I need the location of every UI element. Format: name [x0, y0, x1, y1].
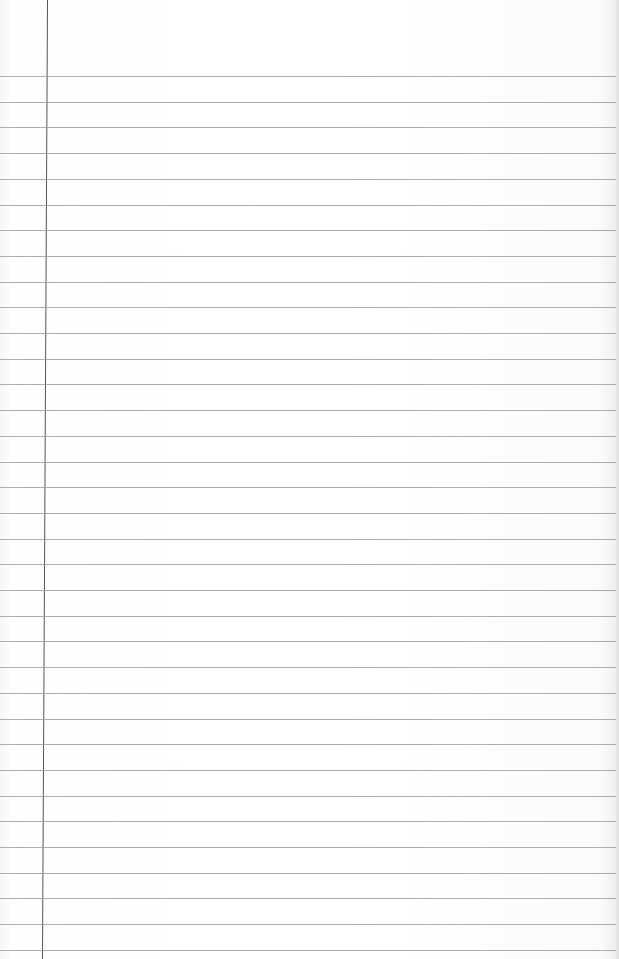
ruled-line — [0, 539, 616, 540]
ruled-line — [0, 616, 616, 617]
ruled-line — [0, 744, 616, 745]
ruled-line — [0, 564, 616, 565]
ruled-line — [0, 384, 616, 385]
ruled-line — [0, 205, 616, 206]
margin-line — [42, 0, 48, 959]
ruled-line — [0, 873, 616, 874]
ruled-line — [0, 462, 616, 463]
ruled-line — [0, 641, 616, 642]
page-edge-shadow — [615, 0, 619, 959]
ruled-line — [0, 487, 616, 488]
ruled-line — [0, 898, 616, 899]
ruled-line — [0, 359, 616, 360]
ruled-line — [0, 436, 616, 437]
ruled-line — [0, 693, 616, 694]
ruled-paper — [0, 0, 619, 959]
ruled-line — [0, 667, 616, 668]
ruled-line — [0, 307, 616, 308]
ruled-line — [0, 153, 616, 154]
ruled-line — [0, 719, 616, 720]
ruled-line — [0, 924, 616, 925]
ruled-line — [0, 282, 616, 283]
ruled-line — [0, 256, 616, 257]
ruled-line — [0, 950, 616, 951]
ruled-line — [0, 821, 616, 822]
ruled-line — [0, 770, 616, 771]
ruled-line — [0, 796, 616, 797]
ruled-line — [0, 410, 616, 411]
ruled-line — [0, 127, 616, 128]
ruled-line — [0, 333, 616, 334]
ruled-line — [0, 179, 616, 180]
ruled-line — [0, 76, 616, 77]
ruled-line — [0, 102, 616, 103]
ruled-line — [0, 513, 616, 514]
ruled-line — [0, 847, 616, 848]
ruled-line — [0, 590, 616, 591]
ruled-line — [0, 230, 616, 231]
